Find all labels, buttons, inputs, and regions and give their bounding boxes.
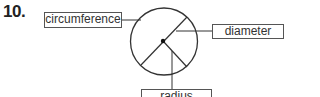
diameter-label: diameter	[212, 24, 284, 39]
circumference-label: circumference	[44, 12, 122, 28]
center-point	[161, 39, 165, 43]
radius-line	[163, 41, 187, 67]
radius-label: radius	[141, 89, 212, 97]
